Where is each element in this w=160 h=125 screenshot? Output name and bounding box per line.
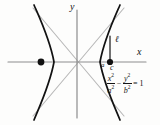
hyperbola-canvas (0, 0, 160, 125)
equation-equals-one: = 1 (133, 79, 144, 88)
equation-left-numerator: x2 (107, 73, 115, 83)
hyperbola-equation: x2 a2 − y2 b2 = 1 (106, 73, 144, 94)
equation-right-denominator: b2 (123, 83, 132, 94)
equation-operator: − (117, 79, 122, 88)
equation-right-numerator: y2 (123, 73, 131, 83)
x-axis-label: x (137, 47, 141, 57)
y-axis-label: y (70, 2, 74, 12)
equation-right-fraction: y2 b2 (123, 73, 132, 94)
vertex-distance-label: a (101, 62, 105, 69)
semi-latus-rectum-label: ℓ (115, 35, 119, 44)
hyperbola-figure: y x ℓ a c x2 a2 − y2 b2 = 1 (0, 0, 160, 125)
left-focus-point (38, 59, 45, 66)
focus-distance-label: c (110, 64, 114, 72)
axes-group (8, 10, 146, 118)
equation-left-denominator: a2 (107, 83, 116, 94)
equation-left-fraction: x2 a2 (107, 73, 116, 94)
